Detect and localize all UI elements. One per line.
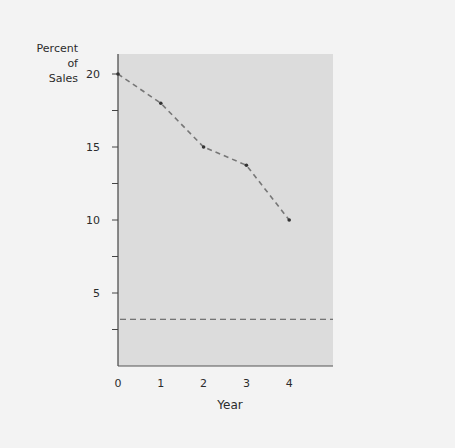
x-tick-label: 4 (286, 377, 293, 390)
line-chart: 2015105 01234 PercentofSales Year (0, 0, 455, 448)
y-tick-label: 5 (93, 287, 100, 300)
x-axis-title: Year (216, 398, 242, 412)
data-point (202, 145, 206, 149)
x-tick-label: 0 (115, 377, 122, 390)
y-axis-title-line: of (67, 57, 79, 70)
x-tick-label: 3 (243, 377, 250, 390)
data-point (245, 163, 249, 167)
x-tick-label: 2 (200, 377, 207, 390)
y-axis-ticks (112, 74, 118, 330)
y-axis-title-line: Percent (37, 42, 79, 55)
y-tick-label: 20 (86, 68, 100, 81)
y-tick-label: 10 (86, 214, 100, 227)
y-axis-title-line: Sales (49, 72, 79, 85)
data-point (116, 72, 120, 76)
data-point (287, 218, 291, 222)
y-tick-label: 15 (86, 141, 100, 154)
y-axis-title: PercentofSales (37, 42, 80, 85)
x-tick-label: 1 (157, 377, 164, 390)
x-axis-tick-labels: 01234 (115, 377, 293, 390)
y-axis-tick-labels: 2015105 (86, 68, 100, 300)
chart: 2015105 01234 PercentofSales Year (0, 0, 455, 448)
data-point (159, 101, 163, 105)
